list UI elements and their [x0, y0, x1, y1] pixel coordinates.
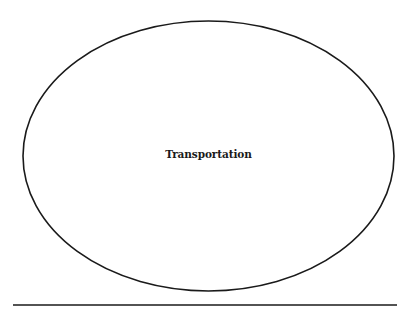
ellipse-label: Transportation: [0, 148, 410, 160]
